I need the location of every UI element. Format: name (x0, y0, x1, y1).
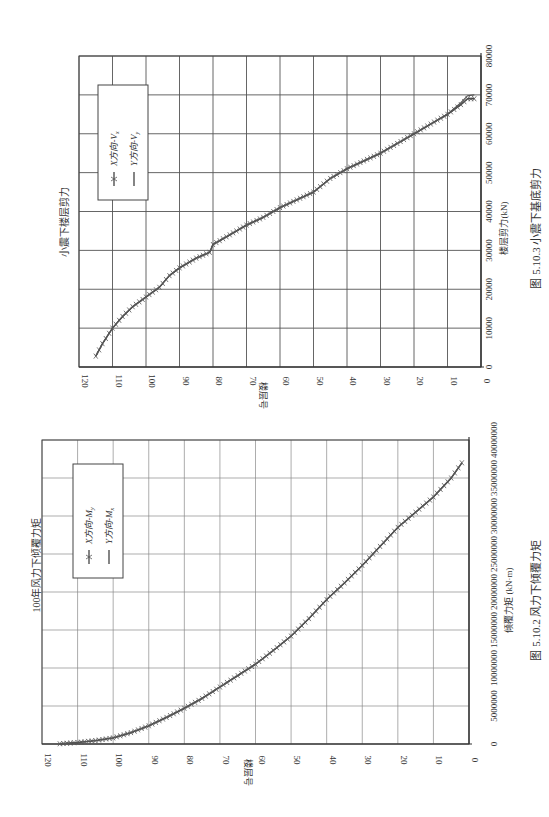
legend-label: Y方向-Mx (104, 508, 115, 545)
floor-tick-label: 120 (43, 753, 53, 767)
floor-tick-label: 30 (382, 377, 392, 387)
value-tick-label: 35000000 (489, 460, 499, 497)
floor-tick-label: 30 (363, 756, 373, 766)
value-tick-label: 0 (484, 364, 494, 369)
legend-subscript: x (109, 508, 115, 512)
value-tick-label: 15000000 (489, 612, 499, 649)
legend: X方向-VxY方向-Vy (98, 85, 148, 200)
floor-axis-label: 楼层号 (243, 759, 254, 786)
value-tick-label: 60000 (484, 122, 494, 145)
floor-tick-label: 50 (315, 377, 325, 387)
value-tick-label: 40000 (484, 200, 494, 223)
value-tick-label: 30000000 (489, 498, 499, 535)
value-tick-label: 50000 (484, 161, 494, 184)
floor-axis-label: 楼层号 (258, 382, 269, 409)
legend-subscript: y (89, 507, 95, 511)
floor-tick-label: 70 (248, 377, 258, 387)
value-tick-label: 25000000 (489, 536, 499, 573)
value-tick-label: 70000 (484, 83, 494, 106)
value-tick-label: 80000 (484, 44, 494, 67)
legend-label: Y方向-Vy (129, 132, 140, 167)
book-page: 1201101009080706050403020100050000001000… (0, 0, 549, 817)
value-tick-label: 20000 (484, 278, 494, 301)
value-axis-label: 楼层剪力(kN) (498, 202, 509, 255)
floor-tick-label: 40 (348, 377, 358, 387)
floor-tick-label: 40 (328, 756, 338, 766)
floor-tick-label: 0 (470, 758, 480, 763)
floor-tick-label: 20 (399, 756, 409, 766)
legend-subscript: y (134, 132, 140, 136)
floor-tick-label: 120 (80, 374, 90, 388)
floor-tick-label: 60 (257, 756, 267, 766)
floor-tick-label: 50 (292, 756, 302, 766)
legend-box (98, 85, 148, 200)
floor-tick-label: 0 (482, 379, 492, 384)
legend-label: X方向-My (84, 507, 95, 545)
charts-canvas: 1201101009080706050403020100050000001000… (0, 0, 549, 817)
chart-title: 100年风力下倾覆力矩 (30, 518, 42, 613)
value-axis-label: 倾覆力矩 (kN·m) (503, 567, 514, 632)
legend-label: X方向-Vx (109, 131, 120, 167)
floor-tick-label: 90 (150, 756, 160, 766)
series-line-x-direction (96, 99, 475, 356)
figure-caption: 图 5.10.3 小震下基底剪力 (529, 168, 542, 289)
story-shear-chart: 1201101009080706050403020100010000200003… (58, 44, 542, 408)
value-tick-label: 10000 (484, 316, 494, 339)
overturning-moment-chart: 1201101009080706050403020100050000001000… (30, 422, 542, 786)
floor-tick-label: 100 (114, 753, 124, 767)
floor-tick-label: 80 (185, 756, 195, 766)
value-tick-label: 40000000 (489, 422, 499, 459)
figure-caption: 图 5.10.2 风力下倾覆力矩 (530, 540, 542, 661)
floor-tick-label: 20 (415, 377, 425, 387)
value-tick-label: 0 (489, 741, 499, 746)
legend-subscript: x (114, 131, 120, 135)
floor-tick-label: 110 (114, 374, 124, 388)
floor-tick-label: 10 (434, 756, 444, 766)
legend-box (73, 464, 123, 578)
floor-tick-label: 60 (281, 377, 291, 387)
value-tick-label: 30000 (484, 239, 494, 262)
value-tick-label: 5000000 (489, 690, 499, 722)
legend: X方向-MyY方向-Mx (73, 464, 123, 578)
floor-tick-label: 70 (221, 756, 231, 766)
floor-tick-label: 100 (147, 374, 157, 388)
floor-tick-label: 10 (449, 377, 459, 387)
chart-title: 小震下楼层剪力 (58, 187, 70, 257)
value-tick-label: 20000000 (489, 574, 499, 611)
value-tick-label: 10000000 (489, 650, 499, 687)
floor-tick-label: 110 (79, 753, 89, 767)
floor-tick-label: 80 (214, 377, 224, 387)
floor-tick-label: 90 (181, 377, 191, 387)
